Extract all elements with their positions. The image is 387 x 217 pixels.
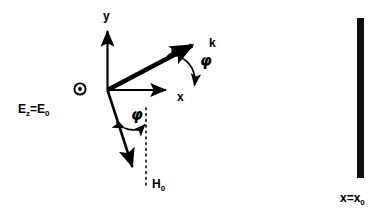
diagram-svg bbox=[0, 0, 387, 217]
angle-label-lower: φ bbox=[131, 108, 143, 123]
figure-canvas: y x k H0 φ φ Ez=E0 x=x0 bbox=[0, 0, 387, 217]
boundary-bar bbox=[357, 18, 364, 178]
angle-arc-upper bbox=[180, 57, 195, 86]
h-vector bbox=[108, 90, 133, 167]
h-vector-label-subscript: 0 bbox=[161, 184, 165, 193]
electric-field-label-e: E bbox=[18, 102, 26, 116]
h-vector-label: H0 bbox=[152, 178, 165, 190]
boundary-label-subscript: 0 bbox=[360, 198, 364, 207]
y-axis-label: y bbox=[103, 10, 110, 22]
circle-dot-icon bbox=[74, 83, 85, 94]
electric-field-label: Ez=E0 bbox=[18, 103, 49, 115]
electric-field-label-equals: =E bbox=[30, 102, 45, 116]
h-vector-label-main: H bbox=[152, 177, 161, 191]
k-vector-label: k bbox=[209, 37, 216, 49]
boundary-label: x=x0 bbox=[340, 192, 365, 204]
electric-field-label-z-subscript: z bbox=[26, 109, 30, 118]
electric-field-label-zero-subscript: 0 bbox=[45, 109, 49, 118]
x-axis-label: x bbox=[177, 91, 184, 103]
k-vector bbox=[108, 46, 193, 91]
angle-label-upper: φ bbox=[200, 54, 212, 69]
angle-arc-lower bbox=[125, 125, 146, 130]
boundary-label-main: x=x bbox=[340, 191, 360, 205]
